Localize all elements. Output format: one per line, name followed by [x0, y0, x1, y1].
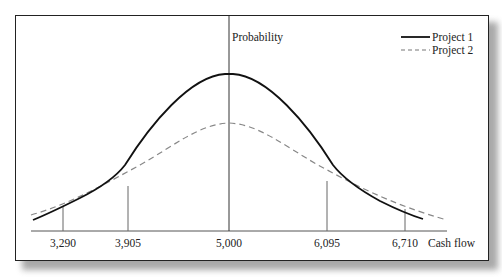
tick-label-5000: 5,000 [216, 237, 242, 250]
y-axis-label: Probability [232, 31, 283, 44]
x-axis-label: Cash flow [428, 237, 476, 249]
chart-canvas: 3,290 3,905 5,000 6,095 6,710 Cash flow … [0, 0, 502, 278]
legend-label-project-1: Project 1 [432, 31, 473, 44]
tick-label-3290: 3,290 [50, 237, 76, 250]
tick-label-3905: 3,905 [115, 237, 141, 250]
tick-label-6095: 6,095 [314, 237, 340, 250]
legend-label-project-2: Project 2 [432, 44, 473, 57]
tick-label-6710: 6,710 [392, 237, 418, 250]
project-1-curve [33, 74, 423, 220]
legend: Project 1 Project 2 [401, 31, 473, 57]
project-2-curve [31, 123, 447, 220]
